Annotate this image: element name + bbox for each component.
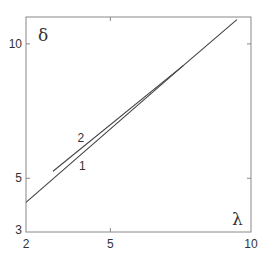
series-line-1: [26, 20, 237, 203]
axis-labels: δ λ: [38, 25, 243, 229]
series-line-2: [53, 65, 184, 171]
y-axis-label: δ: [38, 25, 48, 45]
x-tick-label: 5: [107, 237, 114, 251]
data-series: [26, 20, 237, 203]
axis-ticks: 25103510: [9, 17, 258, 251]
y-tick-label: 3: [15, 223, 22, 237]
x-axis-label: λ: [232, 209, 243, 229]
curve-label-2: 2: [78, 131, 85, 145]
x-tick-label: 10: [244, 237, 258, 251]
y-tick-label: 10: [9, 37, 23, 51]
axes-frame: [26, 17, 251, 232]
curve-label-1: 1: [79, 159, 86, 173]
plot-border: [26, 17, 251, 232]
x-tick-label: 2: [23, 237, 30, 251]
chart: 25103510 δ λ 12: [0, 0, 269, 261]
y-tick-label: 5: [15, 171, 22, 185]
